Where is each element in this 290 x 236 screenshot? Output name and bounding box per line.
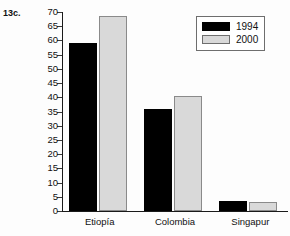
y-tick-label-0: 0 <box>32 206 58 215</box>
y-tick-label-15: 15 <box>32 163 58 172</box>
bar-singapur-1994 <box>219 201 247 211</box>
y-tick-label-60: 60 <box>32 35 58 44</box>
y-tick-label-35: 35 <box>32 107 58 116</box>
y-tick-label-25: 25 <box>32 135 58 144</box>
y-tick-label-55: 55 <box>32 50 58 59</box>
legend-item-1994: 1994 <box>202 20 258 33</box>
category-label-etiopía: Etiopía <box>62 216 137 227</box>
y-axis-line <box>62 12 63 211</box>
y-tick-label-10: 10 <box>32 178 58 187</box>
bar-etiopía-1994 <box>69 43 97 211</box>
legend-item-2000: 2000 <box>202 33 258 46</box>
y-tick-label-50: 50 <box>32 64 58 73</box>
y-tick-label-30: 30 <box>32 121 58 130</box>
legend-label-2000: 2000 <box>236 34 258 45</box>
x-axis-line <box>62 211 288 212</box>
bar-etiopía-2000 <box>99 16 127 211</box>
legend-label-1994: 1994 <box>236 21 258 32</box>
figure-container: 13c. 0510152025303540455055606570 Etiopí… <box>0 0 290 236</box>
y-tick-label-5: 5 <box>32 192 58 201</box>
y-tick-label-65: 65 <box>32 21 58 30</box>
bar-singapur-2000 <box>249 202 277 211</box>
y-tick-label-70: 70 <box>32 7 58 16</box>
legend-swatch-1994 <box>202 22 230 31</box>
category-label-colombia: Colombia <box>137 216 212 227</box>
category-label-singapur: Singapur <box>213 216 288 227</box>
y-tick-label-45: 45 <box>32 78 58 87</box>
legend-swatch-2000 <box>202 35 230 44</box>
y-tick-label-40: 40 <box>32 92 58 101</box>
chart-legend: 1994 2000 <box>196 16 265 51</box>
y-tick-label-20: 20 <box>32 149 58 158</box>
bar-colombia-1994 <box>144 109 172 211</box>
bar-colombia-2000 <box>174 96 202 211</box>
